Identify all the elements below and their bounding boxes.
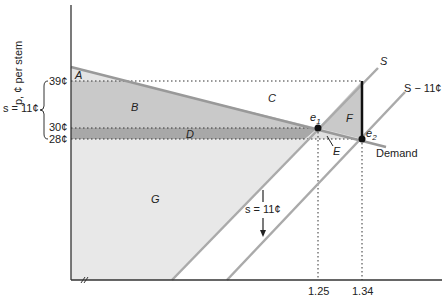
x-tick-134: 1.34 — [352, 286, 373, 297]
area-label-e: E — [333, 146, 340, 157]
supply-shifted-curve-label: S − 11¢ — [404, 83, 441, 94]
area-label-g: G — [151, 194, 160, 205]
area-label-b: B — [131, 102, 138, 113]
area-label-c: C — [268, 93, 276, 104]
subsidy-brace — [40, 81, 48, 139]
subsidy-brace-label: s = 11¢ — [3, 103, 39, 114]
area-label-d: D — [186, 129, 194, 140]
equilibrium-label-e1: e1 — [310, 112, 321, 126]
supply-curve-label: S — [380, 56, 387, 67]
area-d-region — [71, 128, 318, 139]
y-axis-label-text: p, ¢ per stem — [12, 41, 24, 105]
y-tick-28: 28¢ — [49, 134, 67, 145]
area-label-a: A — [75, 70, 82, 81]
equilibrium-label-e2: e2 — [366, 128, 377, 142]
area-label-f: F — [346, 113, 353, 124]
demand-curve-label: Demand — [376, 148, 418, 159]
y-tick-39: 39¢ — [49, 76, 67, 87]
e2-subscript: 2 — [372, 133, 376, 142]
e1-subscript: 1 — [316, 117, 320, 126]
equilibrium-point-e2 — [359, 136, 366, 143]
x-tick-125: 1.25 — [308, 286, 329, 297]
y-axis-label: p, ¢ per stem — [12, 5, 26, 105]
arrow-down-icon — [260, 230, 266, 237]
y-tick-30: 30¢ — [49, 122, 67, 133]
shift-label: s = 11¢ — [245, 204, 281, 215]
